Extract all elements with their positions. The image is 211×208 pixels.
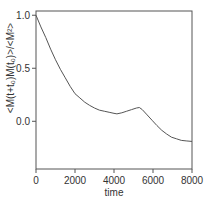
data-line (36, 15, 192, 141)
x-tick-label: 8000 (181, 175, 204, 186)
y-tick-label: 0.0 (16, 116, 30, 127)
plot-frame (36, 11, 192, 169)
y-tick-label: 1.0 (16, 10, 30, 21)
plot-area (36, 11, 192, 169)
chart: 02000400060008000 1.00.50.0 time <M(t+t₀… (0, 0, 211, 208)
y-axis-title: <M(t+t₀)M(t₀)>/<M²> (5, 23, 16, 113)
x-tick-label: 0 (33, 175, 39, 186)
x-axis-title: time (105, 187, 124, 198)
x-tick-label: 2000 (64, 175, 87, 186)
x-tick-label: 6000 (142, 175, 165, 186)
y-tick-label: 0.5 (16, 63, 30, 74)
x-axis: 02000400060008000 (33, 169, 203, 186)
y-axis: 1.00.50.0 (16, 10, 36, 127)
x-tick-label: 4000 (103, 175, 126, 186)
